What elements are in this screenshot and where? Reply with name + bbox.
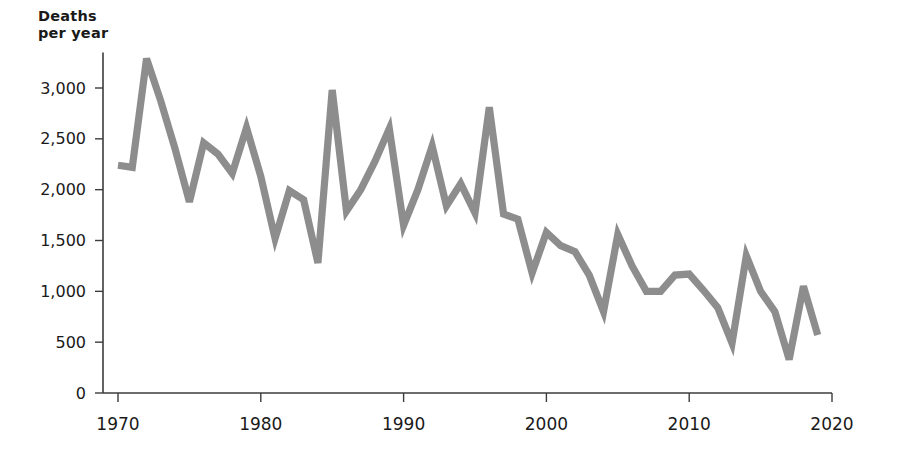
y-tick-label: 3,000 <box>40 79 86 98</box>
y-tick-label: 2,500 <box>40 129 86 148</box>
x-tick-label: 2010 <box>668 414 711 434</box>
line-chart: 05001,0001,5002,0002,5003,000 1970198019… <box>0 0 897 461</box>
x-tick-label: 1980 <box>239 414 282 434</box>
y-axis-ticks: 05001,0001,5002,0002,5003,000 <box>40 79 103 403</box>
x-tick-label: 1990 <box>382 414 425 434</box>
y-tick-label: 1,000 <box>40 282 86 301</box>
deaths-per-year-series <box>118 59 818 360</box>
y-tick-label: 0 <box>76 384 86 403</box>
x-tick-label: 2020 <box>810 414 853 434</box>
y-tick-label: 1,500 <box>40 231 86 250</box>
chart-page: Deaths per year 05001,0001,5002,0002,500… <box>0 0 897 461</box>
y-tick-label: 500 <box>55 333 86 352</box>
y-tick-label: 2,000 <box>40 180 86 199</box>
x-tick-label: 2000 <box>525 414 568 434</box>
x-axis-ticks: 197019801990200020102020 <box>96 393 853 434</box>
x-tick-label: 1970 <box>96 414 139 434</box>
